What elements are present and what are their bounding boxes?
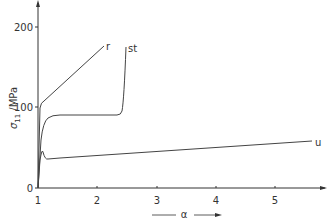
stress-strain-chart: 200 100 0 1 2 3 4 5 α σ11 /MPa r st u (0, 0, 327, 221)
curve-st-label: st (128, 43, 137, 54)
y-tick-200: 200 (14, 22, 33, 33)
x-tick-4: 4 (213, 195, 219, 206)
x-tick-2: 2 (94, 195, 100, 206)
x-axis-arrow-icon (320, 186, 327, 190)
x-axis-label: α (181, 209, 188, 220)
curve-r (38, 46, 104, 188)
x-label-arrow-icon (215, 213, 222, 217)
x-tick-1: 1 (35, 195, 41, 206)
curve-u-label: u (315, 137, 321, 148)
curve-u (38, 141, 312, 188)
curve-r-label: r (106, 41, 111, 52)
x-tick-5: 5 (272, 195, 278, 206)
curve-st (38, 47, 126, 188)
y-axis-arrow-icon (36, 0, 40, 7)
y-tick-0: 0 (27, 183, 33, 194)
x-tick-3: 3 (154, 195, 160, 206)
